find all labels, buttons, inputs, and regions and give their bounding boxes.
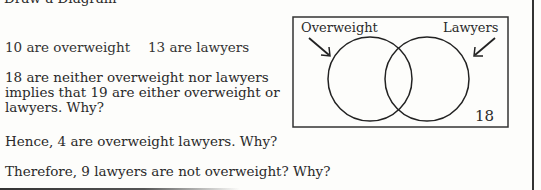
bottom-border-line <box>0 188 240 190</box>
overweight-label: Overweight <box>301 20 379 35</box>
lawyers-arrow-icon <box>474 38 495 56</box>
lawyers-label: Lawyers <box>443 20 498 35</box>
overweight-arrow-icon <box>309 38 330 56</box>
outside-count: 18 <box>475 107 494 125</box>
right-border-line <box>532 0 534 190</box>
lawyers-circle <box>385 37 469 121</box>
overweight-circle <box>328 37 412 121</box>
venn-diagram: Overweight Lawyers 18 <box>0 0 541 190</box>
